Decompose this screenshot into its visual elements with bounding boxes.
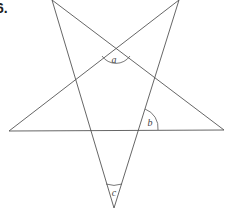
angle-label-a: a <box>112 54 117 65</box>
angle-label-b: b <box>148 117 153 128</box>
star-edge-top_left-bottom <box>52 0 114 208</box>
star-lines <box>9 0 224 208</box>
angle-labels: abc <box>112 54 153 198</box>
angle-arc-c <box>106 184 122 185</box>
star-edge-left-right <box>9 130 224 131</box>
pentagram-diagram: abc <box>0 0 226 210</box>
star-edge-top_right-left <box>9 0 179 131</box>
star-edge-top_right-bottom <box>114 0 179 208</box>
angle-label-c: c <box>112 187 117 198</box>
star-edge-right-top_left <box>52 0 224 130</box>
